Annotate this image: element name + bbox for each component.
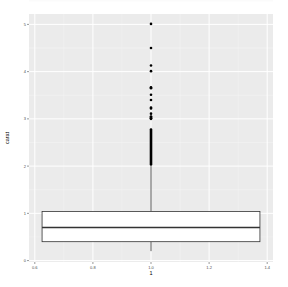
iqr-box bbox=[42, 211, 260, 241]
outlier-point bbox=[150, 64, 153, 67]
x-tick-label: 0.8 bbox=[90, 265, 96, 270]
outlier-point bbox=[150, 99, 153, 102]
x-axis-title: 1 bbox=[149, 270, 152, 276]
x-axis: 0.60.81.01.21.4 bbox=[32, 262, 271, 270]
y-tick-label: 2 bbox=[24, 164, 27, 169]
x-tick-label: 0.6 bbox=[32, 265, 38, 270]
y-tick-label: 0 bbox=[24, 258, 27, 263]
y-tick-label: 1 bbox=[24, 211, 27, 216]
outlier-point bbox=[150, 93, 153, 96]
y-axis-title: carat bbox=[4, 131, 10, 144]
boxplot-chart: 012345 0.60.81.01.21.4 1 carat bbox=[0, 0, 288, 287]
x-tick-label: 1.4 bbox=[264, 265, 270, 270]
outlier-point bbox=[150, 47, 153, 50]
outlier-point bbox=[150, 112, 153, 115]
outlier-point bbox=[150, 118, 153, 121]
outlier-point bbox=[150, 70, 153, 73]
outlier-point bbox=[150, 23, 153, 26]
y-tick-label: 5 bbox=[24, 22, 27, 27]
x-tick-label: 1.0 bbox=[148, 265, 154, 270]
outlier-point bbox=[150, 107, 153, 110]
y-axis: 012345 bbox=[24, 22, 29, 263]
outlier-dense-band bbox=[150, 128, 153, 165]
outlier-point bbox=[150, 87, 153, 90]
y-tick-label: 3 bbox=[24, 116, 27, 121]
x-tick-label: 1.2 bbox=[206, 265, 212, 270]
y-tick-label: 4 bbox=[24, 69, 27, 74]
